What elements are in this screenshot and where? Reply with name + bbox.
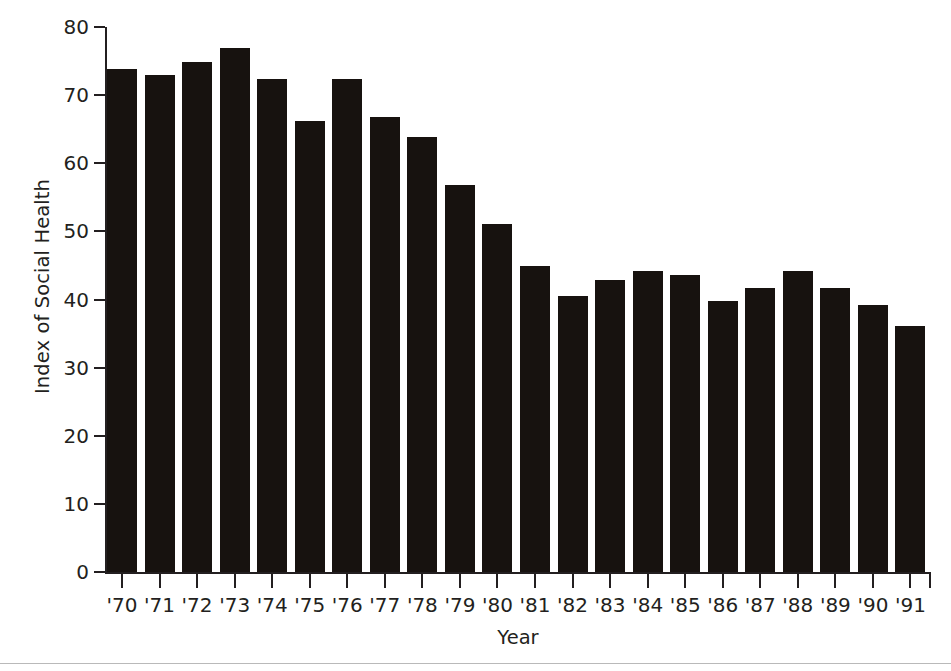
x-tick-label: '87 (745, 593, 776, 617)
x-tick-mark (496, 574, 498, 588)
bar (520, 266, 550, 572)
x-tick-mark (346, 574, 348, 588)
x-tick-label: '85 (670, 593, 701, 617)
y-tick-mark (94, 571, 105, 573)
x-tick-mark (534, 574, 536, 588)
x-tick-label: '90 (857, 593, 888, 617)
bar (858, 305, 888, 572)
y-tick-label: 30 (64, 356, 89, 380)
y-tick-label: 80 (64, 15, 89, 39)
x-tick-label: '75 (294, 593, 325, 617)
x-tick-mark (759, 574, 761, 588)
plot-area: 01020304050607080 '70'71'72'73'74'75'76'… (105, 27, 931, 573)
y-tick-label: 40 (64, 288, 89, 312)
x-tick-label: '81 (520, 593, 551, 617)
bar (182, 62, 212, 572)
bar (145, 75, 175, 572)
x-tick-mark (834, 574, 836, 588)
x-tick-mark (121, 574, 123, 588)
y-tick-label: 60 (64, 151, 89, 175)
bar (295, 121, 325, 572)
x-tick-mark (196, 574, 198, 588)
bar (220, 48, 250, 572)
x-tick-label: '88 (782, 593, 813, 617)
x-tick-mark (722, 574, 724, 588)
x-tick-mark (421, 574, 423, 588)
x-tick-label: '83 (595, 593, 626, 617)
bar (407, 137, 437, 572)
x-tick-label: '71 (144, 593, 175, 617)
x-tick-mark (234, 574, 236, 588)
bar (745, 288, 775, 572)
x-tick-label: '84 (632, 593, 663, 617)
bar (332, 79, 362, 572)
x-tick-mark (684, 574, 686, 588)
bar (708, 301, 738, 572)
bar (670, 275, 700, 572)
y-tick-mark (94, 94, 105, 96)
x-tick-label: '73 (219, 593, 250, 617)
y-tick-label: 10 (64, 492, 89, 516)
x-tick-mark (872, 574, 874, 588)
y-axis-title: Index of Social Health (22, 0, 62, 573)
bar-chart-figure: Index of Social Health 01020304050607080… (0, 0, 951, 671)
bar (633, 271, 663, 572)
bar (445, 185, 475, 572)
bar (107, 69, 137, 572)
bar (595, 280, 625, 572)
y-tick-mark (94, 26, 105, 28)
x-tick-label: '91 (895, 593, 926, 617)
bar (257, 79, 287, 572)
x-tick-label: '72 (182, 593, 213, 617)
x-tick-label: '82 (557, 593, 588, 617)
x-tick-label: '70 (107, 593, 138, 617)
bar (820, 288, 850, 572)
x-tick-mark (459, 574, 461, 588)
y-tick-label: 20 (64, 424, 89, 448)
y-tick-label: 70 (64, 83, 89, 107)
x-tick-label: '78 (407, 593, 438, 617)
x-tick-label: '74 (257, 593, 288, 617)
y-tick-mark (94, 367, 105, 369)
x-tick-mark (609, 574, 611, 588)
x-tick-mark (572, 574, 574, 588)
x-axis-end-tick (929, 574, 931, 588)
x-tick-mark (271, 574, 273, 588)
x-tick-label: '77 (369, 593, 400, 617)
bottom-divider (0, 663, 951, 664)
x-tick-label: '79 (444, 593, 475, 617)
y-tick-mark (94, 503, 105, 505)
x-axis-title: Year (105, 626, 931, 649)
y-tick-mark (94, 299, 105, 301)
y-tick-mark (94, 435, 105, 437)
x-tick-mark (797, 574, 799, 588)
bar (783, 271, 813, 572)
x-tick-label: '89 (820, 593, 851, 617)
y-tick-label: 50 (64, 219, 89, 243)
bar (558, 296, 588, 572)
x-tick-label: '80 (482, 593, 513, 617)
x-axis-line (105, 572, 931, 574)
y-tick-mark (94, 230, 105, 232)
x-tick-label: '86 (707, 593, 738, 617)
bar (482, 224, 512, 572)
bar (895, 326, 925, 572)
x-tick-label: '76 (332, 593, 363, 617)
y-tick-label: 0 (76, 560, 89, 584)
x-tick-mark (384, 574, 386, 588)
x-tick-mark (909, 574, 911, 588)
x-tick-mark (647, 574, 649, 588)
x-tick-mark (309, 574, 311, 588)
y-tick-mark (94, 162, 105, 164)
bar (370, 117, 400, 572)
x-tick-mark (159, 574, 161, 588)
